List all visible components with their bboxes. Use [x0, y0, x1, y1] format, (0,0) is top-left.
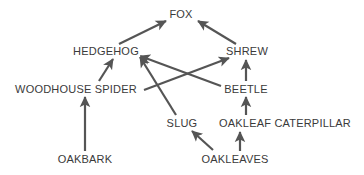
node-label-oakleaves: OAKLEAVES: [200, 153, 269, 165]
edge-arrow-spider-to-hedgehog: [99, 59, 113, 81]
node-label-slug: SLUG: [166, 117, 199, 129]
food-web-diagram: FOXHEDGEHOGSHREWWOODHOUSE SPIDERBEETLESL…: [0, 0, 364, 175]
node-label-oakbark: OAKBARK: [57, 153, 114, 165]
edge-arrow-slug-to-hedgehog: [140, 57, 176, 115]
edge-arrow-hedgehog-to-fox: [119, 21, 166, 44]
node-label-shrew: SHREW: [225, 45, 269, 57]
edge-arrow-oakleaves-to-slug: [192, 131, 213, 150]
edge-arrow-shrew-to-fox: [198, 21, 236, 44]
node-label-hedgehog: HEDGEHOG: [72, 45, 140, 57]
node-label-spider: WOODHOUSE SPIDER: [14, 83, 138, 95]
node-label-fox: FOX: [168, 8, 193, 20]
edge-arrow-beetle-to-hedgehog: [140, 56, 221, 86]
node-label-caterpillar: OAKLEAF CATERPILLAR: [218, 117, 352, 129]
node-label-beetle: BEETLE: [223, 83, 268, 95]
